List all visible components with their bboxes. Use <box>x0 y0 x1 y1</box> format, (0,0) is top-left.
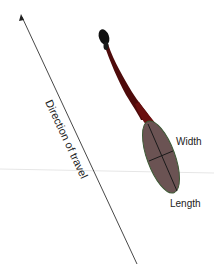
width-label: Width <box>176 136 202 147</box>
stain-body <box>135 117 187 198</box>
direction-arrow <box>19 14 137 264</box>
stain-head-neck <box>104 42 109 50</box>
direction-label: Direction of travel <box>43 98 90 181</box>
length-label: Length <box>170 198 201 209</box>
horizon-line <box>0 169 214 173</box>
stain-head <box>97 28 112 46</box>
arrowhead-icon <box>19 14 24 21</box>
bloodstain-diagram: Direction of travel Width Length <box>0 0 214 273</box>
stain-tail <box>104 44 156 126</box>
